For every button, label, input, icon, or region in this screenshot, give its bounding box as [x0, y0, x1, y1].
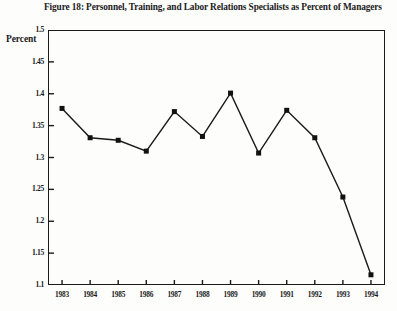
data-point-marker [172, 109, 177, 114]
x-axis-ticks [62, 280, 371, 285]
chart-plot-area [0, 0, 397, 311]
x-axis-tick-label: 1994 [356, 290, 386, 299]
y-axis-tick-label: 1.1 [18, 280, 44, 289]
data-markers [60, 91, 374, 278]
data-point-marker [60, 106, 65, 111]
y-axis-tick-label: 1.15 [18, 248, 44, 257]
data-point-marker [312, 135, 317, 140]
x-axis-tick-label: 1991 [272, 290, 302, 299]
x-axis-tick-label: 1993 [328, 290, 358, 299]
figure-container: Figure 18: Personnel, Training, and Labo… [0, 0, 397, 311]
data-point-marker [144, 149, 149, 154]
y-axis-tick-label: 1.3 [18, 153, 44, 162]
data-point-marker [116, 138, 121, 143]
data-point-marker [200, 134, 205, 139]
data-point-marker [256, 151, 261, 156]
y-axis-tick-label: 1.2 [18, 216, 44, 225]
x-axis-tick-label: 1984 [75, 290, 105, 299]
x-axis-tick-label: 1986 [131, 290, 161, 299]
data-line [62, 93, 371, 275]
y-axis-ticks [48, 62, 54, 253]
y-axis-tick-label: 1.5 [18, 25, 44, 34]
data-point-marker [340, 195, 345, 200]
data-point-marker [228, 91, 233, 96]
data-point-marker [88, 135, 93, 140]
y-axis-tick-label: 1.25 [18, 184, 44, 193]
data-point-marker [284, 108, 289, 113]
x-axis-tick-label: 1989 [216, 290, 246, 299]
y-axis-tick-label: 1.45 [18, 57, 44, 66]
x-axis-tick-label: 1990 [244, 290, 274, 299]
x-axis-tick-label: 1985 [103, 290, 133, 299]
x-axis-tick-label: 1992 [300, 290, 330, 299]
y-axis-tick-label: 1.35 [18, 121, 44, 130]
y-axis-tick-label: 1.4 [18, 89, 44, 98]
x-axis-tick-label: 1983 [47, 290, 77, 299]
x-axis-tick-label: 1987 [159, 290, 189, 299]
data-point-marker [368, 272, 373, 277]
x-axis-tick-label: 1988 [187, 290, 217, 299]
